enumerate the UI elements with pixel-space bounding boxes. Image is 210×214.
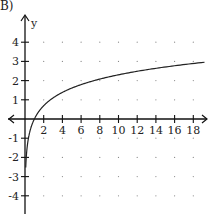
grid-dot bbox=[43, 176, 44, 177]
y-tick-label: 4 bbox=[12, 36, 19, 49]
grid-dot bbox=[137, 138, 138, 139]
y-axis-label: y bbox=[30, 17, 38, 30]
x-tick-label: 4 bbox=[59, 124, 66, 137]
grid-dot bbox=[137, 176, 138, 177]
grid-dot bbox=[118, 157, 119, 158]
grid-dot bbox=[43, 61, 44, 62]
curve-line bbox=[26, 62, 205, 167]
grid-dot bbox=[137, 99, 138, 100]
grid-dot bbox=[81, 176, 82, 177]
grid-dot bbox=[43, 138, 44, 139]
grid-dot bbox=[99, 80, 100, 81]
grid-dot bbox=[43, 42, 44, 43]
grid-dot bbox=[99, 61, 100, 62]
grid-dot bbox=[174, 42, 175, 43]
grid-dot bbox=[174, 195, 175, 196]
grid-dot bbox=[137, 80, 138, 81]
grid-dot bbox=[43, 99, 44, 100]
function-curve bbox=[26, 62, 205, 167]
grid-dot bbox=[62, 138, 63, 139]
grid-dot bbox=[81, 42, 82, 43]
grid-dot bbox=[174, 138, 175, 139]
grid-dot bbox=[99, 42, 100, 43]
grid-dot bbox=[193, 61, 194, 62]
grid-dot bbox=[62, 42, 63, 43]
grid-dot bbox=[62, 99, 63, 100]
grid-dot bbox=[62, 176, 63, 177]
grid-dot bbox=[99, 176, 100, 177]
grid-dot bbox=[193, 80, 194, 81]
grid-dot bbox=[155, 176, 156, 177]
grid-dot bbox=[155, 195, 156, 196]
grid-dot bbox=[99, 195, 100, 196]
x-tick-label: 14 bbox=[149, 124, 163, 137]
grid-dot bbox=[193, 138, 194, 139]
grid-dot bbox=[155, 99, 156, 100]
grid-dot bbox=[81, 195, 82, 196]
grid-dot bbox=[62, 195, 63, 196]
grid-dot bbox=[193, 42, 194, 43]
chart: y24681012141618-4-3-2-11234 bbox=[0, 0, 210, 214]
x-tick-label: 18 bbox=[186, 124, 200, 137]
grid-dot bbox=[155, 138, 156, 139]
y-tick-label: -3 bbox=[8, 171, 19, 184]
x-tick-label: 12 bbox=[130, 124, 144, 137]
grid-dot bbox=[155, 42, 156, 43]
grid-dot bbox=[81, 138, 82, 139]
grid-dot bbox=[174, 61, 175, 62]
x-tick-label: 16 bbox=[168, 124, 182, 137]
grid-dot bbox=[118, 61, 119, 62]
grid-dot bbox=[137, 42, 138, 43]
y-tick-label: -1 bbox=[8, 132, 19, 145]
grid-dot bbox=[99, 138, 100, 139]
grid-dot bbox=[118, 80, 119, 81]
grid-dot bbox=[62, 80, 63, 81]
grid-dot bbox=[193, 195, 194, 196]
y-tick-label: 3 bbox=[12, 55, 19, 68]
grid-dot bbox=[193, 157, 194, 158]
y-tick-label: -4 bbox=[8, 190, 19, 203]
grid-dot bbox=[62, 61, 63, 62]
x-tick-label: 2 bbox=[40, 124, 47, 137]
grid-dot bbox=[174, 99, 175, 100]
y-tick-label: 2 bbox=[12, 75, 19, 88]
grid-dot bbox=[81, 157, 82, 158]
grid-dot bbox=[118, 99, 119, 100]
grid-dot bbox=[137, 157, 138, 158]
grid-dot bbox=[43, 80, 44, 81]
grid-dot bbox=[118, 195, 119, 196]
grid-dot bbox=[43, 195, 44, 196]
grid-dot bbox=[118, 42, 119, 43]
grid-dot bbox=[193, 99, 194, 100]
axes: y24681012141618-4-3-2-11234 bbox=[8, 15, 207, 214]
grid-dot bbox=[99, 99, 100, 100]
grid-dot bbox=[81, 61, 82, 62]
grid-dot bbox=[62, 157, 63, 158]
grid-dot bbox=[43, 157, 44, 158]
grid-dot bbox=[174, 176, 175, 177]
grid-dot bbox=[81, 99, 82, 100]
grid-dot bbox=[81, 80, 82, 81]
y-tick-label: 1 bbox=[12, 94, 19, 107]
grid-dot bbox=[155, 80, 156, 81]
grid-dot bbox=[174, 157, 175, 158]
grid-dot bbox=[137, 195, 138, 196]
x-tick-label: 6 bbox=[78, 124, 85, 137]
y-tick-label: -2 bbox=[8, 151, 19, 164]
grid-dot bbox=[118, 138, 119, 139]
grid-dot bbox=[118, 176, 119, 177]
grid-dot bbox=[137, 61, 138, 62]
x-tick-label: 10 bbox=[112, 124, 126, 137]
grid-dot bbox=[155, 157, 156, 158]
grid-dot bbox=[174, 80, 175, 81]
grid-dot bbox=[155, 61, 156, 62]
x-tick-label: 8 bbox=[96, 124, 103, 137]
grid-dot bbox=[193, 176, 194, 177]
grid-dot bbox=[99, 157, 100, 158]
